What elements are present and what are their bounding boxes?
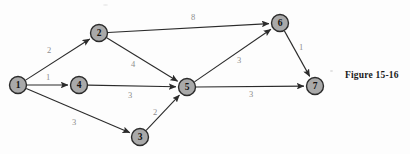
edge-weight-1-4: 1 [46, 72, 50, 82]
node-label-3: 3 [138, 132, 143, 142]
edge-5-to-6 [194, 29, 271, 82]
node-label-7: 7 [313, 81, 318, 91]
edges-layer [26, 24, 310, 133]
node-4[interactable]: 4 [71, 77, 88, 94]
node-7[interactable]: 7 [307, 78, 324, 95]
edge-weight-2-5: 4 [131, 59, 136, 69]
scan-speck [103, 4, 108, 6]
edge-4-to-5 [88, 85, 176, 87]
node-3[interactable]: 3 [132, 129, 149, 146]
node-2[interactable]: 2 [91, 25, 108, 42]
node-label-6: 6 [278, 18, 283, 28]
edge-weight-5-7: 3 [249, 89, 253, 99]
edge-weight-1-2: 2 [47, 45, 51, 55]
edge-weight-3-5: 2 [153, 107, 157, 117]
node-label-1: 1 [16, 80, 21, 90]
edge-weight-2-6: 8 [191, 12, 195, 22]
node-label-4: 4 [77, 80, 82, 90]
node-1[interactable]: 1 [10, 77, 27, 94]
node-6[interactable]: 6 [272, 15, 289, 32]
nodes-layer: 1234567 [10, 15, 324, 146]
node-label-5: 5 [185, 82, 190, 92]
node-label-2: 2 [97, 28, 102, 38]
edge-6-to-7 [284, 31, 309, 77]
edge-weight-6-7: 1 [299, 42, 303, 52]
edge-5-to-7 [196, 86, 304, 87]
figure-caption: Figure 15-16 [345, 70, 399, 80]
figure-container: 2138432331 1234567 Figure 15-16 [0, 0, 410, 154]
edge-3-to-5 [146, 95, 179, 130]
edge-weight-1-3: 3 [72, 117, 76, 127]
edge-1-to-3 [26, 89, 130, 133]
edge-2-to-6 [108, 24, 269, 33]
edge-1-to-2 [26, 39, 90, 80]
node-5[interactable]: 5 [179, 79, 196, 96]
edge-2-to-5 [107, 38, 178, 82]
edge-weight-4-5: 3 [128, 90, 132, 100]
edge-weight-5-6: 3 [237, 55, 241, 65]
scan-speck [330, 70, 333, 72]
